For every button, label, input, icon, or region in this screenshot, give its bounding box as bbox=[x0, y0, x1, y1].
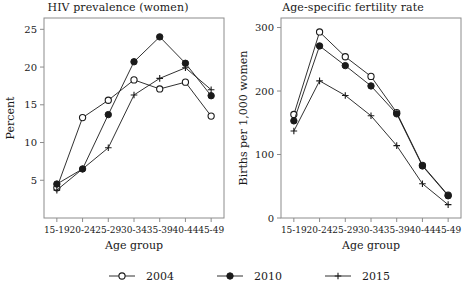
x-tick-label: 45-49 bbox=[198, 225, 224, 235]
x-axis-label: Age group bbox=[104, 239, 163, 252]
x-tick-label: 25-29 bbox=[95, 225, 121, 235]
data-point bbox=[156, 75, 163, 82]
legend-item-2010: 2010 bbox=[217, 270, 282, 283]
data-point bbox=[105, 97, 111, 103]
plot-frame bbox=[44, 18, 224, 218]
legend-item-2004: 2004 bbox=[109, 270, 174, 283]
series-2015 bbox=[54, 65, 215, 194]
y-tick-label: 200 bbox=[255, 86, 274, 97]
data-point bbox=[157, 34, 163, 40]
x-tick-label: 25-29 bbox=[332, 225, 358, 235]
y-tick-label: 25 bbox=[24, 24, 37, 35]
series-line bbox=[294, 81, 448, 205]
plot-area-left: 51015202515-1920-2425-2930-3435-3940-444… bbox=[0, 0, 236, 256]
x-tick-label: 20-24 bbox=[307, 225, 333, 235]
x-tick-label: 35-39 bbox=[147, 225, 173, 235]
legend-label: 2015 bbox=[362, 270, 390, 283]
x-axis-label: Age group bbox=[341, 239, 400, 252]
figure-root: HIV prevalence (women) 51015202515-1920-… bbox=[0, 0, 471, 293]
legend-svg: 200420102015 bbox=[0, 258, 471, 293]
data-point bbox=[182, 79, 188, 85]
series-2015 bbox=[291, 78, 452, 208]
data-point bbox=[131, 92, 138, 99]
legend-label: 2004 bbox=[146, 270, 174, 283]
x-tick-label: 35-39 bbox=[384, 225, 410, 235]
data-point bbox=[445, 193, 451, 199]
series-line bbox=[294, 46, 448, 196]
chart-legend: 200420102015 bbox=[0, 258, 471, 293]
legend-marker-plus bbox=[335, 273, 342, 280]
series-2010 bbox=[291, 43, 452, 199]
x-tick-label: 30-34 bbox=[358, 225, 384, 235]
chart-panel-fertility-rate: Age-specific fertility rate 010020030015… bbox=[235, 0, 471, 256]
data-point bbox=[419, 163, 425, 169]
data-point bbox=[208, 113, 214, 119]
data-point bbox=[131, 77, 137, 83]
chart-panel-hiv-prevalence: HIV prevalence (women) 51015202515-1920-… bbox=[0, 0, 236, 256]
data-point bbox=[157, 86, 163, 92]
data-point bbox=[291, 128, 298, 135]
data-point bbox=[368, 83, 374, 89]
y-tick-label: 0 bbox=[268, 213, 274, 224]
x-tick-label: 30-34 bbox=[121, 225, 147, 235]
data-point bbox=[291, 118, 297, 124]
data-point bbox=[105, 111, 111, 117]
data-point bbox=[368, 73, 374, 79]
plot-area-right: 010020030015-1920-2425-2930-3435-3940-44… bbox=[235, 0, 471, 256]
x-tick-label: 45-49 bbox=[435, 225, 461, 235]
x-tick-label: 40-44 bbox=[409, 225, 435, 235]
x-tick-label: 40-44 bbox=[172, 225, 198, 235]
legend-marker-open-circle bbox=[119, 273, 125, 279]
data-point bbox=[79, 115, 85, 121]
y-tick-label: 100 bbox=[255, 149, 274, 160]
data-point bbox=[316, 29, 322, 35]
data-point bbox=[342, 54, 348, 60]
series-2010 bbox=[54, 34, 215, 188]
x-tick-label: 15-19 bbox=[281, 225, 307, 235]
data-point bbox=[316, 78, 323, 85]
data-point bbox=[342, 62, 348, 68]
data-point bbox=[54, 181, 60, 187]
y-axis-label: Percent bbox=[4, 96, 17, 139]
y-tick-label: 5 bbox=[31, 175, 37, 186]
legend-label: 2010 bbox=[254, 270, 282, 283]
y-axis-label: Births per 1,000 women bbox=[237, 51, 250, 186]
data-point bbox=[316, 43, 322, 49]
panel-container: HIV prevalence (women) 51015202515-1920-… bbox=[0, 0, 471, 256]
data-point bbox=[131, 59, 137, 65]
y-tick-label: 300 bbox=[255, 22, 274, 33]
data-point bbox=[394, 111, 400, 117]
legend-marker-filled-circle bbox=[227, 273, 233, 279]
y-tick-label: 10 bbox=[24, 137, 37, 148]
x-tick-label: 15-19 bbox=[44, 225, 70, 235]
y-tick-label: 15 bbox=[24, 99, 37, 110]
x-tick-label: 20-24 bbox=[70, 225, 96, 235]
legend-item-2015: 2015 bbox=[325, 270, 390, 283]
y-tick-label: 20 bbox=[24, 62, 37, 73]
data-point bbox=[208, 93, 214, 99]
